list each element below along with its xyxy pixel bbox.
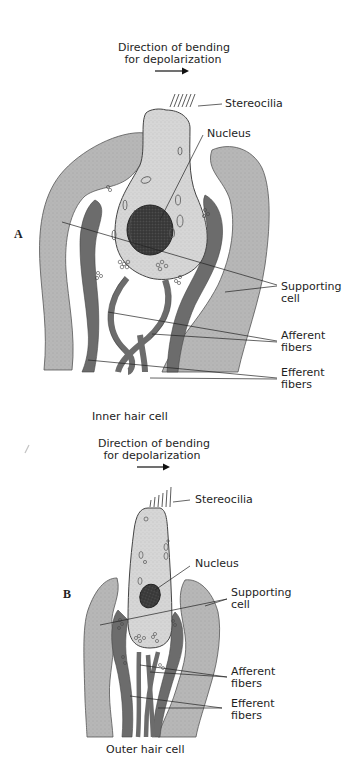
direction-label-a: Direction of bending for depolarization: [118, 42, 228, 66]
arrow-right-icon: [155, 68, 189, 75]
stray-mark: [25, 445, 29, 453]
label-supporting-cell-b: Supporting cell: [231, 587, 292, 611]
panel-letter-b: B: [63, 587, 71, 602]
direction-label-a-line2: for depolarization: [118, 54, 228, 66]
stereocilia-a: [170, 94, 195, 107]
label-nucleus-a: Nucleus: [207, 128, 251, 140]
label-efferent-fibers-b-line2: fibers: [231, 710, 275, 722]
panel-a: [40, 68, 277, 380]
nerve-fibers-a: [111, 278, 168, 372]
label-afferent-fibers-b-line2: fibers: [231, 678, 275, 690]
label-stereocilia-b: Stereocilia: [195, 494, 253, 506]
label-afferent-fibers-a: Afferent fibers: [281, 330, 325, 354]
label-stereocilia-a: Stereocilia: [225, 98, 283, 110]
label-efferent-fibers-b: Efferent fibers: [231, 698, 275, 722]
panel-letter-a: A: [14, 227, 23, 242]
arrow-right-icon: [137, 464, 170, 471]
label-supporting-cell-a: Supporting cell: [281, 281, 342, 305]
supporting-cell-left-b: [84, 578, 118, 737]
direction-label-b: Direction of bending for depolarization: [98, 438, 206, 462]
stereocilia-b: [150, 487, 171, 507]
label-nucleus-b: Nucleus: [195, 558, 239, 570]
label-supporting-cell-a-line2: cell: [281, 293, 342, 305]
outer-hair-cell-body: [128, 508, 172, 648]
label-afferent-fibers-a-line2: fibers: [281, 342, 325, 354]
label-efferent-fibers-a: Efferent fibers: [281, 367, 325, 391]
caption-outer-hair-cell: Outer hair cell: [106, 743, 184, 756]
label-afferent-fibers-b: Afferent fibers: [231, 666, 275, 690]
direction-label-b-line2: for depolarization: [98, 450, 206, 462]
label-efferent-fibers-a-line2: fibers: [281, 379, 325, 391]
caption-inner-hair-cell: Inner hair cell: [92, 410, 168, 423]
fiber-region-left-a: [80, 200, 102, 372]
label-supporting-cell-b-line2: cell: [231, 599, 292, 611]
